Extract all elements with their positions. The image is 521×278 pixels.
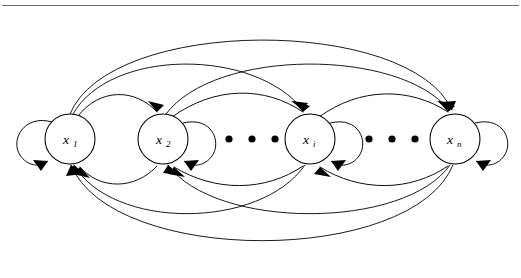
node-xi-circle[interactable] xyxy=(285,114,335,164)
edge-x2-xi xyxy=(172,93,303,117)
node-x2-subscript: 2 xyxy=(166,139,171,149)
ellipsis-between-xi-xn xyxy=(365,135,418,142)
ellipsis-dot xyxy=(365,135,372,142)
edge-x1-xn xyxy=(70,40,452,114)
edge-x1-x2 xyxy=(78,94,157,116)
figure-container: x 1 x 2 x i x n xyxy=(0,0,521,278)
graph-diagram: x 1 x 2 x i x n xyxy=(0,0,521,278)
node-xn-circle[interactable] xyxy=(430,114,480,164)
ellipsis-dot xyxy=(271,135,278,142)
arrowhead-x1-x2 xyxy=(148,101,164,112)
edge-x2-x1 xyxy=(80,166,157,184)
forward-edges-group xyxy=(70,40,456,117)
node-x1-circle[interactable] xyxy=(45,114,95,164)
backward-edges-group xyxy=(66,165,453,241)
node-xi-label: x xyxy=(302,132,309,147)
ellipsis-dot xyxy=(388,135,395,142)
edge-xi-x2 xyxy=(174,166,303,186)
ellipsis-dot xyxy=(411,135,418,142)
node-x2-label: x xyxy=(155,132,162,147)
arrowhead-xn-x2 xyxy=(163,165,180,175)
node-xn-label: x xyxy=(446,132,453,147)
ellipsis-between-x2-xi xyxy=(225,135,278,142)
ellipsis-dot xyxy=(248,135,255,142)
edge-xn-x1 xyxy=(71,165,453,241)
node-xn-subscript: n xyxy=(457,139,462,149)
arrowhead-selfloop-x1 xyxy=(33,160,48,171)
ellipsis-dot xyxy=(225,135,232,142)
edge-xn-x2 xyxy=(168,165,450,214)
node-x1-subscript: 1 xyxy=(73,139,78,149)
node-x2-circle[interactable] xyxy=(138,114,188,164)
node-x1-label: x xyxy=(62,132,69,147)
edge-xi-xn xyxy=(319,94,448,117)
